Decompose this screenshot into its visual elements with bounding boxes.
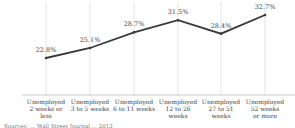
x-tick-label: Unemployed3 to 5 weeks: [68, 98, 112, 112]
x-tick-label: Unemployed2 weeks or less: [24, 98, 68, 119]
data-point: [45, 57, 48, 60]
data-label: 31.5%: [163, 8, 193, 16]
x-tick-label: Unemployed12 to 26 weeks: [156, 98, 200, 119]
data-point: [220, 32, 223, 35]
data-point: [177, 19, 180, 22]
x-tick-label: Unemployed52 weeksor more: [243, 98, 287, 119]
data-label: 25.1%: [75, 36, 105, 44]
data-label: 28.4%: [206, 22, 236, 30]
x-tick-label: Unemployed6 to 11 weeks: [112, 98, 156, 112]
data-point: [264, 14, 267, 17]
data-label: 32.7%: [250, 3, 280, 11]
footnote: Sources: ... Wall Street Journal ... 201…: [4, 123, 113, 128]
data-label: 28.7%: [119, 20, 149, 28]
x-tick-label: Unemployed27 to 51 weeks: [199, 98, 243, 119]
data-point: [133, 31, 136, 34]
data-label: 22.8%: [31, 46, 61, 54]
data-point: [89, 47, 92, 50]
